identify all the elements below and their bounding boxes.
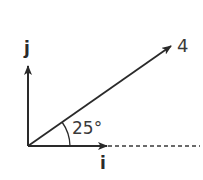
j-label: j [23, 38, 30, 58]
angle-label: 25° [72, 118, 102, 138]
vector-diagram: j i 4 25° [0, 0, 203, 180]
i-label: i [100, 153, 106, 173]
angle-arc [62, 122, 70, 146]
magnitude-label: 4 [177, 35, 188, 56]
